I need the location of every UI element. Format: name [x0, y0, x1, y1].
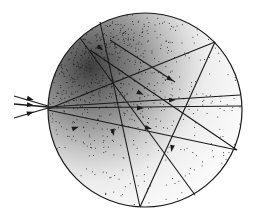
sphere-shading — [48, 13, 242, 207]
arrowhead-icon — [27, 102, 34, 107]
sphere — [48, 13, 242, 207]
sphere-ray-diagram — [0, 0, 255, 221]
